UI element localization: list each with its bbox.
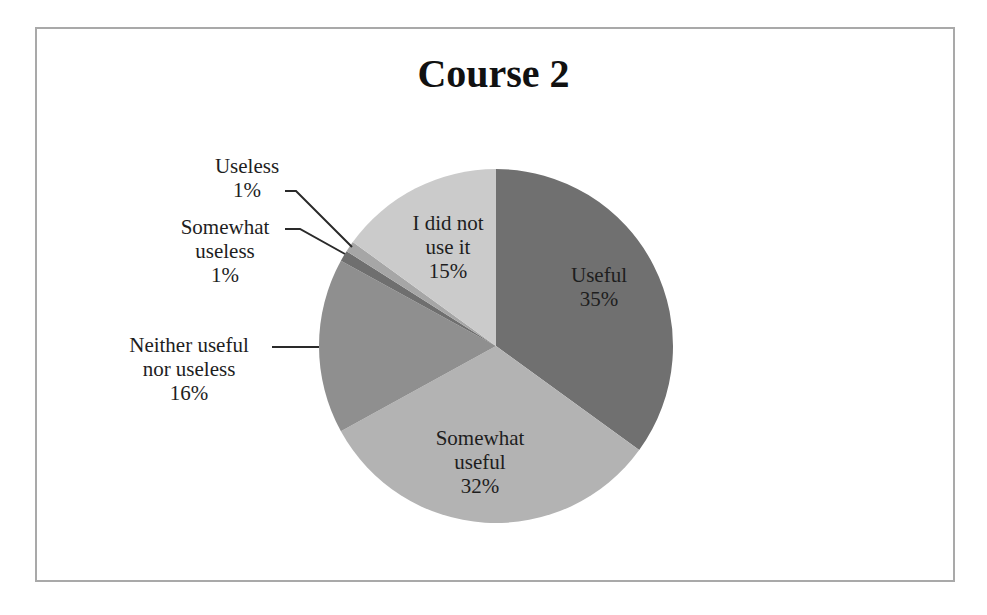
label-somewhat-useful: Somewhat useful 32% bbox=[420, 426, 540, 498]
label-useless-value: 1% bbox=[210, 178, 284, 202]
label-useless: Useless 1% bbox=[210, 154, 284, 202]
label-neither-name-1: Neither useful bbox=[108, 333, 270, 357]
label-neither: Neither useful nor useless 16% bbox=[108, 333, 270, 405]
label-did-not-use-value: 15% bbox=[398, 259, 498, 283]
label-somewhat-useless: Somewhat useless 1% bbox=[166, 215, 284, 287]
label-useful: Useful 35% bbox=[562, 263, 636, 311]
label-somewhat-useful-name-2: useful bbox=[420, 450, 540, 474]
label-somewhat-useful-name-1: Somewhat bbox=[420, 426, 540, 450]
label-useful-name: Useful bbox=[562, 263, 636, 287]
label-useless-name: Useless bbox=[210, 154, 284, 178]
label-somewhat-useless-name-1: Somewhat bbox=[166, 215, 284, 239]
label-useful-value: 35% bbox=[562, 287, 636, 311]
label-did-not-use-name-2: use it bbox=[398, 235, 498, 259]
label-somewhat-useful-value: 32% bbox=[420, 474, 540, 498]
label-did-not-use: I did not use it 15% bbox=[398, 211, 498, 283]
label-neither-name-2: nor useless bbox=[108, 357, 270, 381]
label-somewhat-useless-value: 1% bbox=[166, 263, 284, 287]
leader-line-somewhat-useless bbox=[285, 229, 345, 254]
label-did-not-use-name-1: I did not bbox=[398, 211, 498, 235]
label-neither-value: 16% bbox=[108, 381, 270, 405]
label-somewhat-useless-name-2: useless bbox=[166, 239, 284, 263]
pie-chart bbox=[0, 0, 987, 615]
